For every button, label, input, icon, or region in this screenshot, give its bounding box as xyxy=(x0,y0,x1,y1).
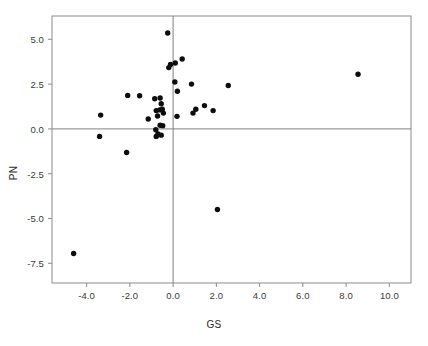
x-axis-tick-label: 6.0 xyxy=(296,290,310,301)
y-axis-tick-label: 2.5 xyxy=(0,79,44,90)
data-point xyxy=(210,108,215,113)
data-point xyxy=(226,83,231,88)
data-point xyxy=(97,134,102,139)
data-point xyxy=(159,101,164,106)
data-point xyxy=(193,106,198,111)
data-point xyxy=(215,207,220,212)
data-point xyxy=(157,95,162,100)
y-axis-tick-label: 5.0 xyxy=(0,34,44,45)
x-axis-tick-label: 2.0 xyxy=(210,290,224,301)
data-point xyxy=(125,93,130,98)
data-point xyxy=(146,116,151,121)
data-point xyxy=(124,150,129,155)
data-point xyxy=(161,110,166,115)
data-point xyxy=(159,132,164,137)
x-axis-tick-label: 8.0 xyxy=(339,290,353,301)
data-point xyxy=(154,134,159,139)
y-axis-tick-label: -2.5 xyxy=(0,168,44,179)
data-point xyxy=(355,72,360,77)
data-point xyxy=(71,251,76,256)
data-point xyxy=(173,60,178,65)
data-point xyxy=(172,79,177,84)
data-point xyxy=(174,114,179,119)
data-point xyxy=(155,113,160,118)
data-point xyxy=(202,103,207,108)
y-axis-tick-label: -5.0 xyxy=(0,213,44,224)
data-point xyxy=(168,62,173,67)
data-point xyxy=(160,123,165,128)
data-point xyxy=(137,93,142,98)
x-axis-tick-label: 0.0 xyxy=(166,290,180,301)
data-point xyxy=(165,30,170,35)
data-point xyxy=(152,96,157,101)
data-point xyxy=(175,89,180,94)
x-axis-tick-label: -4.0 xyxy=(78,290,95,301)
data-point xyxy=(189,81,194,86)
y-axis-tick-label: -7.5 xyxy=(0,258,44,269)
y-axis-tick-label: 0.0 xyxy=(0,123,44,134)
x-axis-tick-label: 4.0 xyxy=(253,290,267,301)
data-point xyxy=(179,56,184,61)
scatter-plot-figure: PN GS -4.0-2.00.02.04.06.08.010.05.02.50… xyxy=(0,0,428,346)
x-axis-tick-label: -2.0 xyxy=(121,290,138,301)
data-point xyxy=(98,112,103,117)
plot-frame xyxy=(52,16,411,283)
x-axis-tick-label: 10.0 xyxy=(380,290,399,301)
